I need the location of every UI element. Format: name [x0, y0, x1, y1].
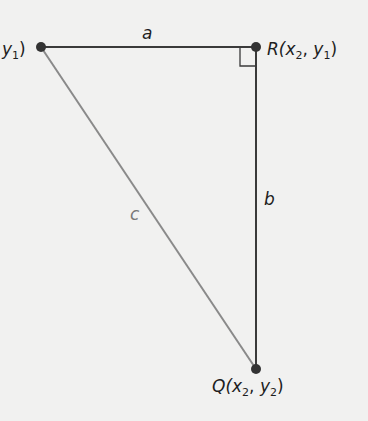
side-a-label: a: [142, 23, 152, 43]
point-R-label: R(x2, y1): [267, 39, 337, 62]
point-P-label: y1): [1, 39, 26, 62]
right-triangle-diagram: y1) R(x2, y1) Q(x2, y2) a b c: [0, 0, 368, 421]
point-Q: [251, 364, 261, 374]
point-Q-label: Q(x2, y2): [212, 376, 284, 399]
point-P: [36, 42, 46, 52]
point-R: [251, 42, 261, 52]
side-b-label: b: [264, 189, 275, 209]
side-c-label: c: [130, 204, 140, 224]
side-c-hypotenuse: [41, 47, 256, 369]
